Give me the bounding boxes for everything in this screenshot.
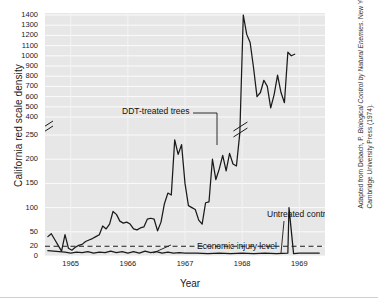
plot-area: DDT-treated trees Untreated control tree… [45, 13, 325, 256]
credit-work-title: Biological Control by Natural Enemies [357, 23, 364, 134]
x-tick-label: 1969 [279, 259, 319, 268]
credit-prefix: Adapted from Debach, P. [357, 133, 364, 208]
source-credit: Adapted from Debach, P. Biological Contr… [357, 0, 374, 209]
x-tick-label: 1968 [222, 259, 262, 268]
annotation-ddt-treated-trees: DDT-treated trees [122, 106, 190, 116]
bottom-rule [0, 297, 378, 298]
x-tick-label: 1965 [51, 259, 91, 268]
x-axis-title: Year [45, 278, 335, 289]
series-line-ddt-treated-trees [48, 15, 295, 251]
plot-svg [45, 13, 325, 256]
axis-break-mark-lower [45, 126, 53, 135]
annotation-economic-injury-level: Economic injury level [197, 241, 277, 251]
x-tick-label: 1967 [165, 259, 205, 268]
leader-line-control [281, 221, 284, 253]
annotation-untreated-control-trees: Untreated control trees [267, 209, 325, 219]
figure-container: California red scale density 02050100150… [0, 0, 378, 302]
x-tick-label: 1966 [108, 259, 148, 268]
